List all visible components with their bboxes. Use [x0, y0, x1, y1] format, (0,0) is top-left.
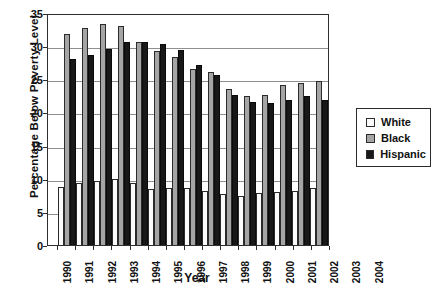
y-tick-label-20: 20 [14, 106, 43, 120]
poverty-bar-chart: Percentage Below Poverty Level 051015202… [0, 0, 437, 296]
bar-group-1994 [130, 15, 148, 245]
y-tick-label-30: 30 [14, 40, 43, 54]
bars-row [58, 15, 327, 245]
bar-group-1996 [166, 15, 184, 245]
y-tick-label-35: 35 [14, 7, 43, 21]
y-tick-0 [43, 246, 47, 247]
x-tick-label-1993: 1993 [130, 261, 140, 283]
x-label-slot-2000: 2000 [280, 250, 302, 282]
legend: WhiteBlackHispanic [356, 108, 431, 167]
legend-swatch-hispanic [366, 150, 374, 159]
legend-label-white: White [381, 117, 411, 128]
y-tick-30 [43, 47, 47, 48]
legend-label-hispanic: Hispanic [380, 149, 426, 160]
x-axis-title: Year [150, 271, 244, 285]
x-tick-label-1990: 1990 [63, 261, 73, 283]
x-label-slot-1990: 1990 [57, 250, 79, 282]
y-tick-label-10: 10 [14, 173, 43, 187]
x-tick-label-1999: 1999 [263, 261, 273, 283]
legend-item-white: White [366, 117, 426, 128]
x-label-slot-1991: 1991 [79, 250, 101, 282]
y-tick-10 [43, 180, 47, 181]
y-tick-label-0: 0 [14, 239, 43, 253]
x-label-slot-1992: 1992 [102, 250, 124, 282]
legend-label-black: Black [381, 133, 410, 144]
plot-area [47, 14, 329, 246]
bar-group-2004 [310, 15, 328, 245]
x-label-slot-1999: 1999 [257, 250, 279, 282]
y-tick-label-5: 5 [14, 206, 43, 220]
legend-swatch-black [366, 134, 375, 143]
legend-item-hispanic: Hispanic [366, 149, 426, 160]
bar-group-2002 [274, 15, 292, 245]
y-tick-label-25: 25 [14, 73, 43, 87]
bar-group-1990 [58, 15, 76, 245]
bar-group-1995 [148, 15, 166, 245]
x-tick-label-2000: 2000 [286, 261, 296, 283]
y-tick-5 [43, 213, 47, 214]
y-tick-15 [43, 147, 47, 148]
x-tick-label-2002: 2002 [330, 261, 340, 283]
x-tick-label-2003: 2003 [352, 261, 362, 283]
bar-group-2000 [238, 15, 256, 245]
bar-group-1993 [112, 15, 130, 245]
bar-group-1998 [202, 15, 220, 245]
bar-hispanic-2004 [322, 100, 328, 245]
bar-group-1992 [94, 15, 112, 245]
x-label-slot-1993: 1993 [124, 250, 146, 282]
bar-group-1999 [220, 15, 238, 245]
y-tick-35 [43, 14, 47, 15]
x-tick-label-2001: 2001 [308, 261, 318, 283]
x-label-slot-2004: 2004 [369, 250, 391, 282]
x-tick-label-1991: 1991 [85, 261, 95, 283]
legend-swatch-white [366, 118, 375, 127]
bar-group-1991 [76, 15, 94, 245]
bar-group-2003 [292, 15, 310, 245]
x-label-slot-2001: 2001 [302, 250, 324, 282]
y-tick-20 [43, 113, 47, 114]
x-label-slot-2003: 2003 [346, 250, 368, 282]
y-tick-25 [43, 80, 47, 81]
x-label-slot-2002: 2002 [324, 250, 346, 282]
bar-group-2001 [256, 15, 274, 245]
x-tick-label-2004: 2004 [375, 261, 385, 283]
y-tick-label-15: 15 [14, 140, 43, 154]
bar-group-1997 [184, 15, 202, 245]
x-tick-label-1992: 1992 [108, 261, 118, 283]
legend-item-black: Black [366, 133, 426, 144]
